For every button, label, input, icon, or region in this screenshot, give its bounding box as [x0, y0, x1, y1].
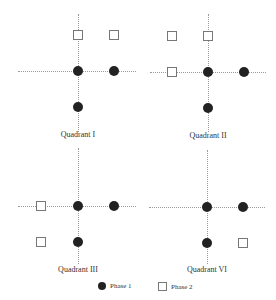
quadrant-label: Quadrant II	[189, 131, 226, 140]
filled-circle-icon	[98, 282, 106, 290]
q1-phase2-marker	[73, 30, 83, 40]
q3-phase2-marker	[36, 237, 46, 247]
q1-phase1-marker	[73, 66, 83, 76]
quadrant-label: Quadrant III	[58, 265, 98, 274]
legend-item-phase1: Phase 1	[98, 282, 132, 290]
q1-phase1-marker	[109, 66, 119, 76]
open-square-icon	[158, 282, 167, 291]
q3-phase1-marker	[73, 201, 83, 211]
q2-phase2-marker	[203, 31, 213, 41]
legend-label: Phase 2	[171, 283, 193, 291]
legend-label: Phase 1	[110, 282, 132, 290]
quadrant-label: Quadrant VI	[187, 265, 227, 274]
q2-phase1-marker	[203, 67, 213, 77]
legend-item-phase2: Phase 2	[158, 282, 193, 291]
q2-phase1-marker	[203, 103, 213, 113]
q1-phase1-marker	[73, 102, 83, 112]
q3-phase2-marker	[36, 201, 46, 211]
q1-phase2-marker	[109, 30, 119, 40]
q4-phase1-marker	[202, 238, 212, 248]
q3-phase1-marker	[73, 237, 83, 247]
q4-phase2-marker	[238, 238, 248, 248]
legend: Phase 1 Phase 2	[0, 282, 276, 296]
quadrant-label: Quadrant I	[61, 130, 95, 139]
q3-phase1-marker	[109, 201, 119, 211]
q2-phase2-marker	[167, 31, 177, 41]
q4-phase1-marker	[202, 202, 212, 212]
q2-phase1-marker	[239, 67, 249, 77]
q4-phase1-marker	[238, 202, 248, 212]
q2-phase2-marker	[167, 67, 177, 77]
